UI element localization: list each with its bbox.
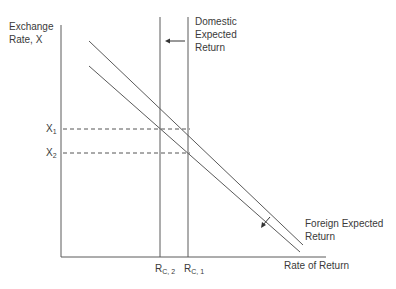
- x2-base: X: [46, 147, 53, 158]
- domestic-label-line2: Expected: [195, 28, 237, 41]
- foreign-label-line2: Return: [305, 230, 383, 243]
- rc1-sub: C, 1: [191, 268, 204, 275]
- x1-tick-label: X1: [46, 122, 57, 138]
- x2-sub: 2: [53, 152, 57, 159]
- rc2-tick-label: RC, 2: [155, 262, 175, 278]
- domestic-return-label: Domestic Expected Return: [195, 15, 237, 54]
- y-axis-label-line1: Exchange: [9, 20, 53, 33]
- domestic-label-line3: Return: [195, 41, 237, 54]
- domestic-shift-arrow-icon: [165, 39, 185, 44]
- y-axis-label-line2: Rate, X: [9, 33, 53, 46]
- domestic-label-line1: Domestic: [195, 15, 237, 28]
- x-axis-label: Rate of Return: [284, 259, 349, 272]
- rc1-tick-label: RC, 1: [184, 262, 204, 278]
- y-axis-label: Exchange Rate, X: [9, 20, 53, 46]
- x1-base: X: [46, 123, 53, 134]
- x1-sub: 1: [53, 128, 57, 135]
- foreign-label-line1: Foreign Expected: [305, 217, 383, 230]
- rc2-sub: C, 2: [162, 268, 175, 275]
- x2-tick-label: X2: [46, 146, 57, 162]
- foreign-return-label: Foreign Expected Return: [305, 217, 383, 243]
- foreign-return-line-2: [89, 66, 300, 252]
- foreign-return-line-1: [89, 41, 303, 245]
